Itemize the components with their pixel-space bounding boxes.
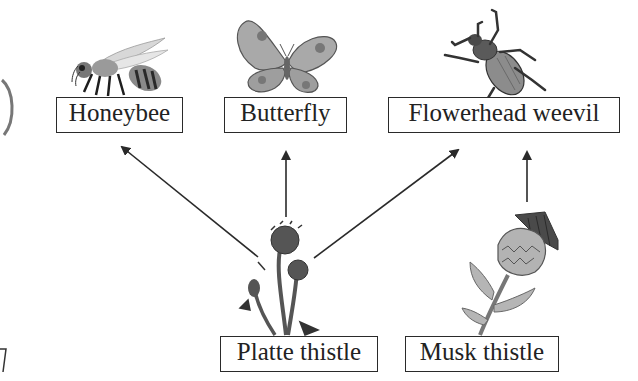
honeybee-label: Honeybee xyxy=(56,97,183,133)
musk-thistle-label: Musk thistle xyxy=(405,336,559,372)
platte-thistle-icon xyxy=(240,221,318,335)
arrow-platte-to-weevil xyxy=(314,150,458,258)
butterfly-label: Butterfly xyxy=(224,97,347,133)
weevil-label: Flowerhead weevil xyxy=(388,97,620,133)
musk-thistle-icon xyxy=(462,212,558,335)
food-web-artwork xyxy=(0,0,638,381)
butterfly-icon xyxy=(237,21,336,93)
weevil-icon xyxy=(445,10,545,102)
honeybee-icon xyxy=(72,38,168,96)
cropped-glyph-fragment xyxy=(0,349,6,372)
cropped-circle-fragment xyxy=(2,80,12,135)
arrow-platte-to-honeybee xyxy=(122,147,258,257)
platte-thistle-label: Platte thistle xyxy=(220,336,378,372)
